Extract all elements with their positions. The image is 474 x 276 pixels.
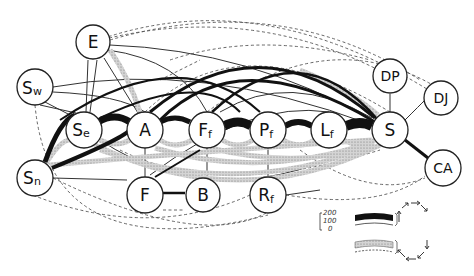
flow-diagram: Sw E Se A Ff Pf Lf S DP DJ CA Sn F B Rf …	[0, 0, 474, 276]
node-label: DJ	[434, 90, 449, 106]
node-b[interactable]: B	[186, 178, 220, 212]
scale-tick-100: 100	[323, 217, 337, 225]
reverse-dashed-sample	[355, 250, 393, 252]
node-ff[interactable]: Ff	[189, 112, 225, 148]
node-sw[interactable]: Sw	[17, 69, 53, 105]
node-pf[interactable]: Pf	[250, 112, 286, 148]
scale-tick-200: 200	[323, 209, 337, 217]
node-e[interactable]: E	[76, 25, 110, 59]
node-f[interactable]: F	[127, 177, 163, 213]
node-a[interactable]: A	[127, 112, 163, 148]
node-label: S	[385, 120, 396, 140]
node-label: CA	[433, 160, 453, 176]
forward-thin-sample	[355, 223, 393, 225]
forward-band-sample	[355, 213, 393, 221]
node-dp[interactable]: DP	[373, 59, 407, 93]
node-ca[interactable]: CA	[425, 150, 461, 186]
scale-bracket	[320, 213, 322, 230]
reverse-band-sample	[355, 240, 393, 248]
node-label: DP	[380, 68, 399, 84]
cycle-arrows-icon	[397, 201, 429, 261]
node-se[interactable]: Se	[66, 112, 102, 148]
node-dj[interactable]: DJ	[424, 81, 458, 115]
node-lf[interactable]: Lf	[311, 112, 347, 148]
node-rf[interactable]: Rf	[250, 177, 286, 213]
node-label: E	[88, 32, 99, 52]
node-s[interactable]: S	[372, 112, 408, 148]
node-label: A	[139, 120, 151, 140]
legend: 200 100 0	[320, 201, 429, 261]
node-label: B	[197, 185, 209, 205]
scale-tick-0: 0	[328, 225, 333, 233]
node-label: F	[140, 185, 150, 205]
node-sn[interactable]: Sn	[17, 160, 53, 196]
